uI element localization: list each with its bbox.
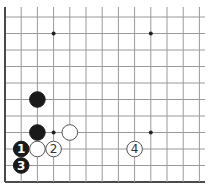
white-stone-icon	[30, 141, 46, 157]
white-stone-icon	[62, 125, 78, 141]
go-board: 1243	[0, 0, 212, 190]
star-point	[149, 131, 153, 135]
black-stone-icon	[30, 92, 46, 108]
white-stone-4: 4	[127, 141, 143, 157]
black-stone-icon	[30, 125, 46, 141]
move-number: 3	[17, 159, 25, 173]
black-stone-3: 3	[13, 158, 29, 174]
black-stone	[30, 92, 46, 108]
move-number: 4	[131, 142, 139, 156]
star-point	[52, 131, 56, 135]
move-number: 1	[17, 142, 25, 156]
white-stone	[62, 125, 78, 141]
black-stone-1: 1	[13, 141, 29, 157]
black-stone	[30, 125, 46, 141]
white-stone-2: 2	[46, 141, 62, 157]
star-point	[149, 32, 153, 36]
move-number: 2	[50, 142, 58, 156]
star-point	[52, 32, 56, 36]
white-stone	[30, 141, 46, 157]
